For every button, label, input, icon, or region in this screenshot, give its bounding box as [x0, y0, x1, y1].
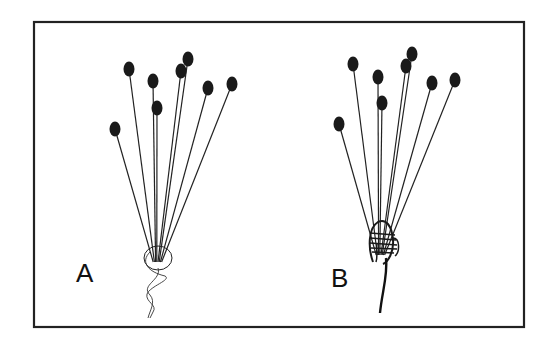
heads-a [110, 52, 238, 137]
stalk [381, 66, 406, 255]
stalk [158, 71, 181, 262]
seed-head [227, 77, 238, 92]
seed-head [176, 64, 187, 79]
seed-head [348, 57, 359, 72]
panel-a: A [76, 52, 238, 319]
figure-frame [34, 22, 524, 327]
panel-label-a: A [76, 258, 94, 288]
seed-head [334, 117, 345, 132]
heads-b [334, 47, 461, 132]
seed-head [373, 70, 384, 85]
seed-head [377, 96, 388, 111]
stem-b [380, 258, 386, 313]
seed-head [124, 62, 135, 77]
stalks-b [339, 54, 455, 255]
stalk [160, 88, 208, 262]
figure: A B [0, 0, 555, 344]
seed-head [203, 81, 214, 96]
seed-head [110, 122, 121, 137]
seed-head [148, 74, 159, 89]
panel-b: B [331, 47, 461, 314]
seed-head [183, 52, 194, 67]
stalk [129, 69, 154, 262]
seed-head [450, 73, 461, 88]
stalks-a [115, 59, 232, 262]
stalk [380, 103, 382, 255]
seed-head [152, 101, 163, 116]
seed-head [427, 76, 438, 91]
stalk [115, 129, 153, 262]
seed-head [407, 47, 418, 62]
panel-label-b: B [331, 263, 348, 293]
